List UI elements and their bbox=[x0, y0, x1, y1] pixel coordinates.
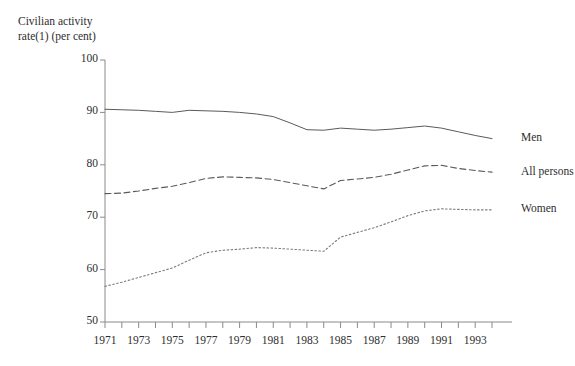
x-axis-tick-label: 1971 bbox=[88, 334, 122, 346]
series-label-men: Men bbox=[521, 131, 542, 143]
series-line-all-persons bbox=[105, 165, 492, 193]
y-axis-tick-label: 60 bbox=[64, 262, 98, 274]
activity-rate-line-chart: Civilian activity rate(1) (per cent) 506… bbox=[0, 0, 575, 366]
x-axis-tick-label: 1979 bbox=[223, 334, 257, 346]
y-axis-tick-label: 100 bbox=[64, 52, 98, 64]
x-axis-tick-label: 1975 bbox=[155, 334, 189, 346]
x-axis-tick-label: 1983 bbox=[290, 334, 324, 346]
x-axis-tick-label: 1987 bbox=[357, 334, 391, 346]
x-axis-tick-label: 1989 bbox=[391, 334, 425, 346]
y-axis-tick-label: 80 bbox=[64, 157, 98, 169]
x-axis-tick-label: 1977 bbox=[189, 334, 223, 346]
x-axis-tick-label: 1993 bbox=[458, 334, 492, 346]
series-line-men bbox=[105, 109, 492, 138]
series-line-women bbox=[105, 209, 492, 287]
series-label-all-persons: All persons bbox=[521, 165, 574, 177]
x-axis-tick-label: 1981 bbox=[256, 334, 290, 346]
x-axis-tick-label: 1973 bbox=[122, 334, 156, 346]
y-axis-tick-label: 50 bbox=[64, 314, 98, 326]
y-axis-tick-label: 90 bbox=[64, 104, 98, 116]
series-label-women: Women bbox=[521, 202, 556, 214]
y-axis-tick-label: 70 bbox=[64, 209, 98, 221]
x-axis-tick-label: 1991 bbox=[425, 334, 459, 346]
x-axis-tick-label: 1985 bbox=[324, 334, 358, 346]
